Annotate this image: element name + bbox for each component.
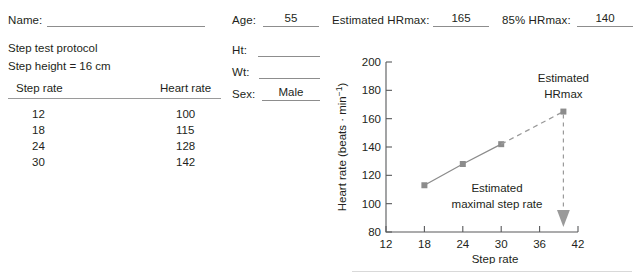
y-axis-title-tail: ) xyxy=(336,83,348,87)
table-row: 142 xyxy=(176,156,195,168)
x-tick-label: 18 xyxy=(418,238,431,250)
x-tick-label: 36 xyxy=(533,238,546,250)
x-tick-label: 12 xyxy=(380,238,393,250)
drop-arrow-to-axis xyxy=(557,115,570,227)
worksheet-page: Name: Step test protocol Step height = 1… xyxy=(0,0,641,274)
name-field-input[interactable] xyxy=(47,26,205,27)
chart-svg: 80 100 120 140 160 180 200 12 18 24 xyxy=(330,52,641,264)
data-point-marker xyxy=(421,182,427,188)
x-axis-title: Step rate xyxy=(472,253,519,264)
x-axis-ticks xyxy=(386,226,578,232)
table-row: 30 xyxy=(32,156,45,168)
y-axis-title: Heart rate (beats · min−1) xyxy=(334,83,348,212)
y-axis-tick-labels: 80 100 120 140 160 180 200 xyxy=(362,56,381,238)
estimated-hrmax-annotation-line1: Estimated xyxy=(538,72,589,84)
estimated-hrmax-field-label: Estimated HRmax: xyxy=(332,14,429,26)
protocol-line-1: Step test protocol xyxy=(8,42,98,54)
85-percent-hrmax-field-input[interactable] xyxy=(577,26,633,27)
data-point-marker xyxy=(460,161,466,167)
table-row: 115 xyxy=(176,124,194,136)
85-percent-hrmax-field-label: 85% HRmax: xyxy=(502,14,571,26)
table-header-step-rate: Step rate xyxy=(16,82,63,94)
y-tick-label: 200 xyxy=(362,56,381,68)
ht-field-input[interactable] xyxy=(258,56,320,57)
table-row: 100 xyxy=(176,108,195,120)
x-tick-label: 42 xyxy=(572,238,585,250)
table-row: 24 xyxy=(32,140,45,152)
age-field-label: Age: xyxy=(232,14,256,26)
estimated-maximal-step-rate-annotation: Estimated maximal step rate xyxy=(452,182,543,210)
estimated-hrmax-field-value: 165 xyxy=(433,12,489,24)
sex-field-label: Sex: xyxy=(232,88,255,100)
sex-field-input[interactable] xyxy=(262,100,320,101)
estimated-maximal-step-rate-line2: maximal step rate xyxy=(452,198,543,210)
wt-field-label: Wt: xyxy=(232,66,250,78)
estimated-hrmax-field-input[interactable] xyxy=(433,26,489,27)
estimated-hrmax-annotation-line2: HRmax xyxy=(544,88,583,100)
y-axis-ticks xyxy=(386,62,392,232)
page-footer-rule xyxy=(352,271,632,272)
y-tick-label: 180 xyxy=(362,84,381,96)
estimated-hrmax-marker xyxy=(560,109,566,115)
y-tick-label: 80 xyxy=(368,226,381,238)
wt-field-input[interactable] xyxy=(259,78,320,79)
y-tick-label: 140 xyxy=(362,141,381,153)
extrapolation-series xyxy=(501,109,566,145)
y-tick-label: 100 xyxy=(362,198,381,210)
estimated-hrmax-annotation: Estimated HRmax xyxy=(538,72,589,100)
y-tick-label: 120 xyxy=(362,169,381,181)
heart-rate-vs-step-rate-chart: 80 100 120 140 160 180 200 12 18 24 xyxy=(330,52,641,264)
estimated-maximal-step-rate-line1: Estimated xyxy=(471,182,522,194)
y-axis-title-superscript: −1 xyxy=(334,86,344,96)
age-field-input[interactable] xyxy=(263,26,319,27)
name-field-label: Name: xyxy=(8,14,42,26)
age-field-value: 55 xyxy=(263,12,319,24)
svg-text:Heart rate (beats · min−1): Heart rate (beats · min−1) xyxy=(334,83,348,212)
x-tick-label: 30 xyxy=(495,238,508,250)
85-percent-hrmax-field-value: 140 xyxy=(577,12,633,24)
y-axis-title-main: Heart rate (beats · min xyxy=(336,96,348,211)
y-tick-label: 160 xyxy=(362,113,381,125)
x-tick-label: 24 xyxy=(456,238,469,250)
table-header-heart-rate: Heart rate xyxy=(160,82,211,94)
table-header-rule xyxy=(8,98,221,99)
x-axis-tick-labels: 12 18 24 30 36 42 xyxy=(380,238,585,250)
table-row: 128 xyxy=(176,140,195,152)
table-row: 18 xyxy=(32,124,45,136)
protocol-line-2: Step height = 16 cm xyxy=(8,60,111,72)
table-row: 12 xyxy=(32,108,45,120)
ht-field-label: Ht: xyxy=(232,44,247,56)
sex-field-value: Male xyxy=(262,86,320,98)
